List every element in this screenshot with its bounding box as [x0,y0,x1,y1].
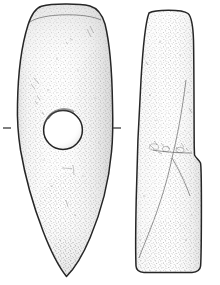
perforation-hole [44,109,83,149]
side-shading-upper [161,15,195,105]
side-shading-base [132,220,204,280]
figure-plate [0,0,220,285]
illustration-canvas [0,0,220,285]
